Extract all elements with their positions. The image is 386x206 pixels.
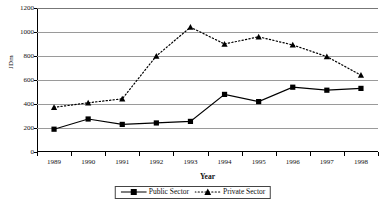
x-axis-tick-label: 1990: [81, 159, 95, 166]
y-axis-tick-label: 800: [24, 53, 35, 60]
x-axis-tick-mark: [173, 152, 174, 156]
line-chart: JDm 020040060080010001200 19891990199119…: [0, 0, 386, 206]
x-axis-tick-mark: [37, 152, 38, 156]
y-axis-tick-label: 200: [24, 125, 35, 132]
chart-legend: Public Sector Private Sector: [115, 186, 271, 199]
x-axis-tick-label: 1995: [252, 159, 266, 166]
x-axis-tick-label: 1991: [115, 159, 129, 166]
series-line-private-sector: [54, 27, 361, 107]
data-point-marker: [51, 104, 57, 110]
data-point-marker: [187, 24, 193, 30]
data-point-marker: [290, 85, 295, 90]
series-layer: [37, 8, 378, 152]
x-axis-tick-mark: [208, 152, 209, 156]
x-axis-tick-label: 1992: [149, 159, 163, 166]
x-axis-tick-label: 1993: [183, 159, 197, 166]
x-axis-tick-mark: [105, 152, 106, 156]
data-point-marker: [358, 86, 363, 91]
x-axis-tick-label: 1994: [218, 159, 232, 166]
data-point-marker: [120, 122, 125, 127]
data-point-marker: [222, 92, 227, 97]
plot-area: 020040060080010001200 198919901991199219…: [37, 8, 378, 152]
data-point-marker: [51, 127, 56, 132]
x-axis-tick-mark: [310, 152, 311, 156]
x-axis-tick-mark: [276, 152, 277, 156]
x-axis-tick-mark: [71, 152, 72, 156]
x-axis-tick-mark: [139, 152, 140, 156]
x-axis-tick-mark: [344, 152, 345, 156]
legend-item-private-sector: Private Sector: [195, 188, 265, 196]
x-axis-title: Year: [37, 172, 378, 181]
y-axis-tick-label: 400: [24, 101, 35, 108]
legend-marker-square-solid: [121, 188, 147, 196]
x-axis-tick-label: 1989: [47, 159, 61, 166]
x-axis-tick-label: 1997: [320, 159, 334, 166]
y-axis-tick-label: 1000: [20, 29, 34, 36]
y-axis-tick-label: 1200: [20, 5, 34, 12]
data-point-marker: [154, 120, 159, 125]
data-point-marker: [256, 99, 261, 104]
data-point-marker: [256, 34, 262, 40]
data-point-marker: [358, 72, 364, 78]
x-axis-tick-mark: [242, 152, 243, 156]
x-axis-tick-label: 1996: [286, 159, 300, 166]
x-axis-tick-label: 1998: [354, 159, 368, 166]
data-point-marker: [324, 54, 330, 60]
data-point-marker: [86, 116, 91, 121]
data-point-marker: [324, 88, 329, 93]
y-axis-tick-label: 600: [24, 77, 35, 84]
y-axis-title-label: JDm: [7, 55, 15, 69]
legend-marker-triangle-dotted: [195, 188, 221, 196]
x-axis-tick-mark: [378, 152, 379, 156]
legend-label-public-sector: Public Sector: [149, 188, 189, 196]
x-axis-title-label: Year: [200, 172, 215, 181]
series-line-public-sector: [54, 87, 361, 129]
legend-label-private-sector: Private Sector: [223, 188, 265, 196]
data-point-marker: [188, 119, 193, 124]
legend-item-public-sector: Public Sector: [121, 188, 189, 196]
y-axis-title: JDm: [1, 22, 9, 62]
